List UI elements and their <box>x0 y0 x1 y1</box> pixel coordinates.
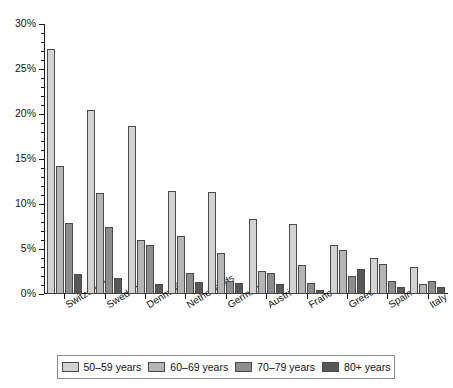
bar <box>186 273 194 294</box>
bar <box>87 110 95 295</box>
bar <box>217 253 225 294</box>
bar <box>168 191 176 294</box>
legend-item[interactable]: 80+ years <box>322 361 390 373</box>
bar <box>348 276 356 294</box>
x-axis-tick <box>428 294 429 299</box>
bar <box>428 281 436 294</box>
bar <box>370 258 378 294</box>
bar <box>208 192 216 294</box>
bar-group: Netherlands <box>165 24 205 294</box>
bar-group: Switzerland <box>44 24 84 294</box>
bar <box>128 126 136 294</box>
bar <box>56 166 64 294</box>
x-axis-tick <box>307 294 308 299</box>
bar-group: France <box>286 24 326 294</box>
y-axis-tick-label: 5% <box>21 241 36 256</box>
y-axis-tick-label: 15% <box>15 151 36 166</box>
y-axis-tick-label: 0% <box>21 286 36 301</box>
chart-legend: 50–59 years60–69 years70–79 years80+ yea… <box>57 355 395 379</box>
bar-groups: SwitzerlandSwedenDenmarkNetherlandsGerma… <box>44 24 448 294</box>
bar <box>177 236 185 294</box>
legend-label: 80+ years <box>344 361 390 373</box>
bar <box>249 219 257 294</box>
legend-swatch <box>62 362 79 372</box>
bar <box>258 271 266 294</box>
plot-area: 0%5%10%15%20%25%30% SwitzerlandSwedenDen… <box>44 24 448 294</box>
bar <box>289 224 297 294</box>
legend-label: 50–59 years <box>84 361 142 373</box>
legend-swatch <box>148 362 165 372</box>
bar-chart: 0%5%10%15%20%25%30% SwitzerlandSwedenDen… <box>0 0 453 388</box>
bar-group: Spain <box>367 24 407 294</box>
bar <box>226 281 234 294</box>
legend-swatch <box>322 362 339 372</box>
bar <box>388 281 396 295</box>
x-axis-tick-label: Italy <box>427 291 449 311</box>
bar <box>330 245 338 295</box>
y-axis-tick-label: 30% <box>15 16 36 31</box>
bar <box>307 283 315 294</box>
bar <box>419 284 427 294</box>
legend-label: 60–69 years <box>170 361 228 373</box>
bar <box>146 245 154 294</box>
bar-group: Sweden <box>84 24 124 294</box>
bar-group: Austria <box>246 24 286 294</box>
bar <box>137 240 145 294</box>
x-axis-tick <box>105 294 106 299</box>
y-axis-tick-label: 25% <box>15 61 36 76</box>
legend-item[interactable]: 50–59 years <box>62 361 142 373</box>
bar <box>339 250 347 294</box>
legend-item[interactable]: 60–69 years <box>148 361 228 373</box>
bar-group: Denmark <box>125 24 165 294</box>
bar <box>298 265 306 294</box>
bar <box>96 193 104 294</box>
bar <box>267 273 275 294</box>
bar-group: Germany <box>206 24 246 294</box>
bar <box>379 264 387 294</box>
legend-item[interactable]: 70–79 years <box>235 361 315 373</box>
legend-swatch <box>235 362 252 372</box>
bar-group: Italy <box>408 24 448 294</box>
y-axis-tick-label: 10% <box>15 196 36 211</box>
bar-group: Greece <box>327 24 367 294</box>
bar <box>105 227 113 295</box>
legend-label: 70–79 years <box>257 361 315 373</box>
bar <box>47 49 55 294</box>
x-axis-tick <box>226 294 227 299</box>
bar <box>410 267 418 294</box>
bar <box>65 223 73 294</box>
y-axis-tick-label: 20% <box>15 106 36 121</box>
